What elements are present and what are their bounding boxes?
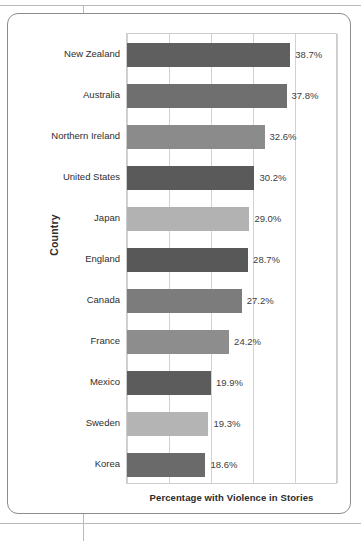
bar-row: 24.2% — [127, 321, 336, 362]
bar — [127, 43, 290, 67]
bar-value-label: 19.3% — [213, 418, 240, 429]
category-label: Japan — [0, 197, 120, 238]
bar-series: 38.7%37.8%32.6%30.2%29.0%28.7%27.2%24.2%… — [127, 34, 336, 483]
category-label: Korea — [0, 443, 120, 484]
category-label: Canada — [0, 279, 120, 320]
x-axis-title: Percentage with Violence in Stories — [126, 492, 337, 503]
bar-value-label: 28.7% — [253, 254, 280, 265]
category-label: United States — [0, 156, 120, 197]
bar-value-label: 24.2% — [234, 336, 261, 347]
bar — [127, 207, 249, 231]
category-label: England — [0, 238, 120, 279]
bar — [127, 453, 205, 477]
bar — [127, 289, 242, 313]
bar-row: 30.2% — [127, 157, 336, 198]
page-rule-top — [0, 5, 361, 6]
bar-value-label: 29.0% — [254, 213, 281, 224]
category-label: France — [0, 320, 120, 361]
page-tick-bottom — [83, 514, 84, 541]
bar-row: 18.6% — [127, 444, 336, 485]
bar-row: 19.3% — [127, 403, 336, 444]
bar — [127, 125, 265, 149]
bar-value-label: 38.7% — [295, 49, 322, 60]
bar-row: 32.6% — [127, 116, 336, 157]
bar — [127, 371, 211, 395]
bar-value-label: 37.8% — [292, 90, 319, 101]
gridline — [337, 34, 338, 483]
y-axis-category-labels: New ZealandAustraliaNorthern IrelandUnit… — [0, 33, 120, 484]
category-label: Australia — [0, 74, 120, 115]
category-label: New Zealand — [0, 33, 120, 74]
bar — [127, 166, 254, 190]
bar-row: 19.9% — [127, 362, 336, 403]
plot-area: 38.7%37.8%32.6%30.2%29.0%28.7%27.2%24.2%… — [126, 33, 337, 484]
category-label: Northern Ireland — [0, 115, 120, 156]
category-label: Mexico — [0, 361, 120, 402]
bar — [127, 330, 229, 354]
bar-row: 37.8% — [127, 75, 336, 116]
bar-row: 38.7% — [127, 34, 336, 75]
bar-row: 29.0% — [127, 198, 336, 239]
bar-value-label: 32.6% — [270, 131, 297, 142]
page-rule-bottom — [0, 523, 361, 524]
bar — [127, 248, 248, 272]
bar-row: 28.7% — [127, 239, 336, 280]
bar-row: 27.2% — [127, 280, 336, 321]
bar-value-label: 27.2% — [247, 295, 274, 306]
category-label: Sweden — [0, 402, 120, 443]
bar-value-label: 19.9% — [216, 377, 243, 388]
bar — [127, 412, 208, 436]
bar-value-label: 30.2% — [259, 172, 286, 183]
bar-value-label: 18.6% — [210, 459, 237, 470]
bar — [127, 84, 287, 108]
